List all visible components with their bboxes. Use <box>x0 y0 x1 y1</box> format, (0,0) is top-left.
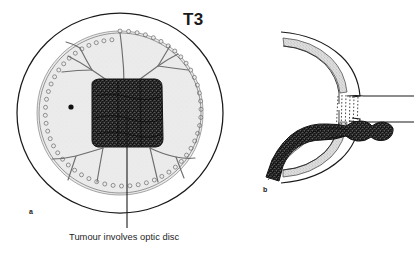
panel-letter-a: a <box>29 208 33 215</box>
macula-fovea-dot <box>68 104 73 109</box>
stage-label-t3: T3 <box>183 11 203 28</box>
panel-a-fundus <box>17 13 223 228</box>
panel-b-cross-section <box>266 32 414 183</box>
figure-canvas <box>0 0 414 253</box>
figure-root: T3 a b Tumour involves optic disc <box>0 0 414 253</box>
panel-letter-b: b <box>263 186 267 193</box>
inner-wall-line-upper <box>283 46 339 104</box>
figure-caption: Tumour involves optic disc <box>69 232 179 241</box>
